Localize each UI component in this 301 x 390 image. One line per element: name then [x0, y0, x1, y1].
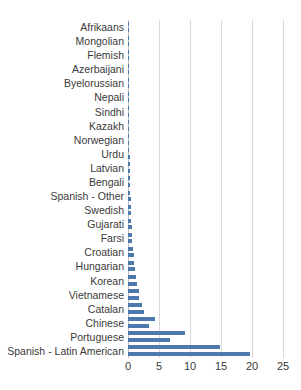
bar-row	[128, 78, 129, 82]
bar	[128, 64, 129, 68]
category-label: Hungarian	[76, 261, 124, 272]
category-label: Norwegian	[74, 134, 124, 145]
category-label: Sindhi	[95, 106, 124, 117]
bar-row	[128, 239, 132, 243]
bar-row	[128, 98, 129, 102]
category-label: Chinese	[85, 317, 124, 328]
bar-row	[128, 162, 130, 166]
category-label: Gujarati	[87, 219, 124, 230]
category-label: Flemish	[87, 50, 124, 61]
bar-row	[128, 50, 129, 54]
bar-row	[128, 22, 129, 26]
category-label: Latvian	[90, 162, 124, 173]
tick-label: 15	[215, 360, 227, 373]
bar	[128, 205, 131, 209]
bar	[128, 120, 129, 124]
tick-label: 10	[184, 360, 196, 373]
bar-row	[128, 282, 137, 286]
bar-row	[128, 345, 220, 349]
bar	[128, 50, 129, 54]
bar	[128, 239, 132, 243]
bar	[128, 296, 139, 300]
bar-row	[128, 183, 130, 187]
bar-row	[128, 127, 129, 131]
bar	[128, 219, 131, 223]
bar-row	[128, 310, 144, 314]
category-label: Byelorussian	[64, 78, 124, 89]
bar-row	[128, 134, 129, 138]
tick-label: 20	[246, 360, 258, 373]
category-label: Portuguese	[70, 331, 124, 342]
category-label: Farsi	[101, 233, 124, 244]
bar	[128, 197, 131, 201]
bar	[128, 28, 129, 32]
bar-row	[128, 225, 132, 229]
tick-label: 0	[125, 360, 131, 373]
bar-row	[128, 42, 129, 46]
bar-row	[128, 92, 129, 96]
bar	[128, 162, 130, 166]
bar	[128, 211, 131, 215]
category-axis: AfrikaansMongolianFlemishAzerbaijaniByel…	[0, 20, 126, 358]
bar-row	[128, 219, 131, 223]
bar-row	[128, 155, 130, 159]
tick-label: 25	[277, 360, 289, 373]
bar-row	[128, 148, 129, 152]
bar-row	[128, 247, 133, 251]
tick-label: 5	[156, 360, 162, 373]
category-label: Vietnamese	[69, 289, 124, 300]
category-label: Azerbaijani	[72, 64, 124, 75]
bar	[128, 155, 130, 159]
category-label: Urdu	[101, 148, 124, 159]
bar	[128, 331, 185, 335]
bar	[128, 310, 144, 314]
bar-row	[128, 113, 129, 117]
bar-row	[128, 197, 131, 201]
bar-row	[128, 191, 130, 195]
bar	[128, 225, 132, 229]
bar-row	[128, 267, 135, 271]
gridline-25	[283, 20, 284, 358]
category-label: Korean	[90, 275, 124, 286]
bar	[128, 338, 170, 342]
bar	[128, 352, 250, 356]
category-label: Mongolian	[76, 36, 124, 47]
bar	[128, 36, 129, 40]
bar	[128, 70, 129, 74]
bar-row	[128, 176, 130, 180]
bar	[128, 247, 133, 251]
category-label: Croatian	[84, 247, 124, 258]
bar	[128, 84, 129, 88]
bar-row	[128, 36, 129, 40]
bar	[128, 127, 129, 131]
bar-row	[128, 56, 129, 60]
bar	[128, 176, 130, 180]
bar-row	[128, 275, 136, 279]
bar	[128, 113, 129, 117]
bar	[128, 141, 129, 145]
bar-row	[128, 253, 134, 257]
bar-row	[128, 70, 129, 74]
category-label: Nepali	[94, 92, 124, 103]
bar	[128, 324, 149, 328]
bar-row	[128, 289, 139, 293]
bar-row	[128, 324, 149, 328]
bar	[128, 169, 130, 173]
category-label: Bengali	[89, 176, 124, 187]
bar-row	[128, 141, 129, 145]
bar-row	[128, 205, 131, 209]
bar-row	[128, 352, 250, 356]
category-label: Spanish - Other	[50, 191, 124, 202]
bar	[128, 317, 155, 321]
bar-row	[128, 120, 129, 124]
bar	[128, 345, 220, 349]
bar-row	[128, 64, 129, 68]
bar-row	[128, 169, 130, 173]
bar	[128, 191, 130, 195]
bar-row	[128, 303, 142, 307]
bar-row	[128, 84, 129, 88]
bar-row	[128, 211, 131, 215]
bar-row	[128, 261, 134, 265]
bar	[128, 42, 129, 46]
value-axis: 0510152025	[128, 360, 288, 380]
